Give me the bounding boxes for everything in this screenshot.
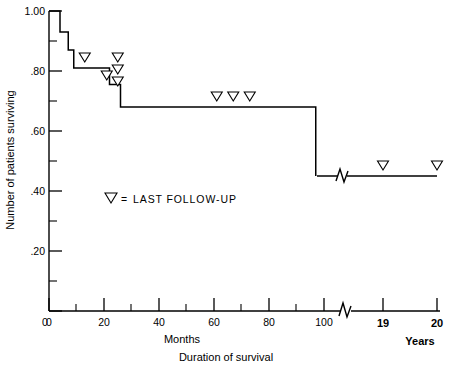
- censored-marker-month-5: [211, 92, 222, 101]
- censored-markers-group: [79, 53, 442, 170]
- x-tick-label-20-years: 20: [431, 317, 443, 329]
- legend-group: = LAST FOLLOW-UP: [105, 193, 237, 205]
- x-axis-tick-labels: 0 20 40 60 80 100 19 20: [46, 316, 443, 329]
- legend-label: LAST FOLLOW-UP: [133, 193, 237, 205]
- censored-marker-month-2: [112, 53, 123, 62]
- x-tick-label-20: 20: [98, 316, 110, 328]
- x-axis-break-mark: [339, 303, 351, 317]
- y-tick-label-0-80: .80: [30, 65, 45, 77]
- chart-canvas: 1.00 .80 .60 .40 .20 0 0 20: [0, 0, 453, 366]
- legend-equals-sign: =: [121, 193, 128, 205]
- x-tick-label-80: 80: [263, 316, 275, 328]
- y-axis-tick-labels: 1.00 .80 .60 .40 .20 0: [25, 5, 49, 328]
- x-axis-title-months: Months: [164, 333, 201, 345]
- x-tick-label-0: 0: [46, 316, 52, 328]
- survival-step-curve: [49, 11, 316, 176]
- y-axis-ticks: [49, 11, 62, 311]
- legend-down-triangle-icon: [105, 193, 117, 203]
- y-axis-title: Number of patients surviving: [4, 90, 16, 229]
- x-axis-title-main: Duration of survival: [179, 351, 273, 363]
- x-tick-label-100: 100: [315, 316, 333, 328]
- censored-marker-month-3: [112, 65, 123, 74]
- survival-chart-figure: 1.00 .80 .60 .40 .20 0 0 20: [0, 0, 453, 366]
- x-tick-label-60: 60: [208, 316, 220, 328]
- x-tick-label-40: 40: [153, 316, 165, 328]
- censored-marker-month-7: [244, 92, 255, 101]
- censored-marker-month-6: [228, 92, 239, 101]
- survival-step-curve-group: [49, 11, 437, 182]
- censored-marker-year-0: [378, 161, 389, 170]
- x-axis-title-years: Years: [405, 335, 434, 347]
- survival-curve-break-mark: [336, 169, 348, 182]
- censored-marker-month-1: [101, 71, 112, 80]
- censored-marker-month-0: [79, 53, 90, 62]
- x-tick-label-19-years: 19: [377, 317, 389, 329]
- censored-marker-year-1: [432, 161, 443, 170]
- y-tick-label-0-20: .20: [30, 245, 45, 257]
- y-tick-label-0-60: .60: [30, 125, 45, 137]
- y-tick-label-1-00: 1.00: [25, 5, 46, 17]
- y-tick-label-0-40: .40: [30, 185, 45, 197]
- x-axis-ticks: [49, 298, 437, 311]
